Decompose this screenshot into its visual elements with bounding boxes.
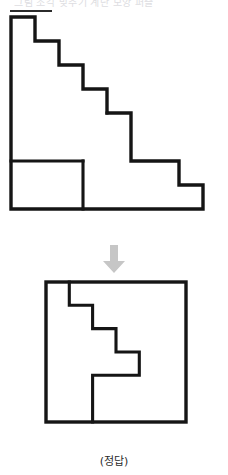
staircase-figure (9, 15, 205, 235)
staircase-svg (9, 15, 205, 235)
down-arrow (101, 243, 127, 275)
answer-svg (43, 279, 189, 439)
answer-figure (43, 279, 189, 439)
header-text: 그림 조각 맞추기 계단 모양 퍼즐 (14, 0, 154, 9)
header-rule (10, 10, 52, 12)
puzzle-page: 그림 조각 맞추기 계단 모양 퍼즐 (0, 0, 228, 475)
down-arrow-icon (101, 243, 127, 275)
answer-caption: (정답) (0, 452, 228, 468)
